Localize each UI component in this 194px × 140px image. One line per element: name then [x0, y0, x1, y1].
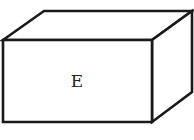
front-face-label: E [71, 71, 83, 91]
box-diagram: E [0, 0, 194, 140]
